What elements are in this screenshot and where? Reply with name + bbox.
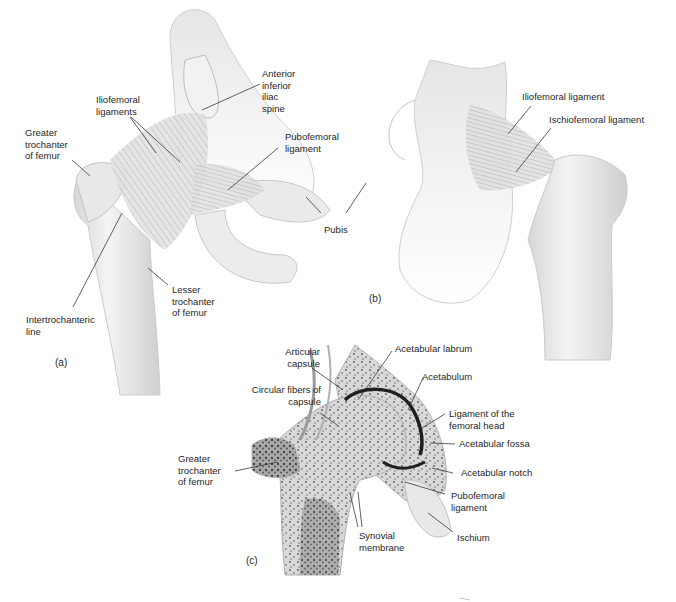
- panel-tag-c: (c): [246, 555, 258, 567]
- label-lesser-trochanter: Lesser trochanter of femur: [172, 284, 215, 319]
- label-articular-capsule: Articular capsule: [270, 346, 320, 369]
- label-acetabular-notch: Acetabular notch: [461, 467, 532, 479]
- panel-b-drawing: [346, 60, 627, 360]
- label-greater-trochanter-a: Greater trochanter of femur: [25, 127, 68, 162]
- label-acetabulum: Acetabulum: [422, 371, 472, 383]
- label-iliofemoral-ligament-b: Iliofemoral ligament: [522, 91, 604, 103]
- label-iliofemoral-ligaments: Iliofemoral ligaments: [96, 94, 140, 117]
- label-pubis: Pubis: [324, 224, 348, 236]
- label-pubofemoral-ligament-a: Pubofemoral ligament: [285, 131, 339, 154]
- label-circular-fibers: Circular fibers of capsule: [245, 384, 321, 407]
- label-ischium: Ischium: [457, 532, 490, 544]
- label-ischiofemoral-ligament: Ischiofemoral ligament: [549, 114, 644, 126]
- panel-tag-a: (a): [55, 357, 67, 369]
- label-intertrochanteric-line: Intertrochanteric line: [26, 314, 95, 337]
- label-pubofemoral-ligament-c: Pubofemoral ligament: [451, 490, 505, 513]
- panel-tag-b: (b): [369, 293, 381, 305]
- label-acetabular-fossa: Acetabular fossa: [459, 438, 530, 450]
- label-greater-trochanter-c: Greater trochanter of femur: [178, 453, 221, 488]
- label-anterior-inferior-iliac-spine: Anterior inferior iliac spine: [262, 68, 295, 114]
- hip-joint-figure: Anterior inferior iliac spine Iliofemora…: [0, 0, 676, 602]
- label-acetabular-labrum: Acetabular labrum: [395, 343, 472, 355]
- label-ligament-femoral-head: Ligament of the femoral head: [449, 408, 515, 431]
- label-synovial-membrane: Synovial membrane: [359, 530, 404, 553]
